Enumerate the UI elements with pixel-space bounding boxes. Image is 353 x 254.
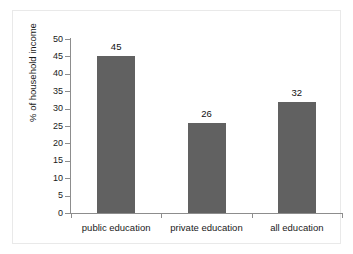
y-axis-tick — [65, 143, 70, 144]
x-axis-tick — [161, 213, 162, 218]
y-axis-tick-label: 25 — [33, 122, 63, 131]
y-axis-tick — [65, 39, 70, 40]
y-axis-tick — [65, 196, 70, 197]
y-axis-tick — [65, 91, 70, 92]
y-axis-tick-label: 40 — [33, 69, 63, 78]
y-axis-tick-label: 45 — [33, 52, 63, 61]
bar — [188, 123, 226, 213]
bar-value-label: 45 — [86, 42, 146, 52]
x-axis-tick — [342, 213, 343, 218]
y-axis-line — [70, 38, 71, 214]
y-axis-tick — [65, 213, 70, 214]
y-axis-tick-label: 15 — [33, 156, 63, 165]
y-axis-tick — [65, 109, 70, 110]
y-axis-tick-label: 0 — [33, 209, 63, 218]
y-axis-tick-label: 30 — [33, 104, 63, 113]
y-axis-tick — [65, 161, 70, 162]
y-axis-tick — [65, 56, 70, 57]
y-axis-tick-label: 50 — [33, 35, 63, 44]
x-axis-tick — [252, 213, 253, 218]
y-axis-tick-label: 20 — [33, 139, 63, 148]
y-axis-tick-label: 35 — [33, 87, 63, 96]
y-axis-tick — [65, 126, 70, 127]
bar — [97, 56, 135, 213]
bar-value-label: 26 — [177, 109, 237, 119]
bar-value-label: 32 — [267, 88, 327, 98]
x-axis-tick — [71, 213, 72, 218]
y-axis-tick-label: 5 — [33, 191, 63, 200]
y-axis-tick — [65, 178, 70, 179]
x-axis-line — [70, 213, 343, 214]
y-axis-tick — [65, 74, 70, 75]
bar — [278, 102, 316, 213]
x-axis-category-label: all education — [242, 222, 352, 233]
y-axis-tick-label: 10 — [33, 174, 63, 183]
chart-frame: % of household income 504540353025201510… — [12, 10, 341, 244]
